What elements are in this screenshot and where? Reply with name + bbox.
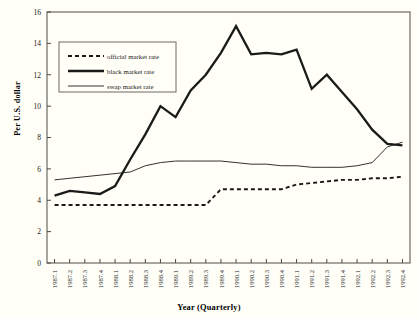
y-axis-title: Per U.S. dollar [13,64,22,154]
x-tick-label: 1992.2 [369,270,376,288]
x-tick-label: 1989.2 [187,270,194,288]
x-tick-label: 1987.4 [97,269,104,288]
x-tick-label: 1989.1 [172,270,179,288]
legend-label: black market rate [107,68,154,75]
x-axis-title: Year (Quarterly) [0,303,418,312]
y-tick-label: 2 [37,227,41,236]
x-tick-label: 1991.4 [339,269,346,288]
y-tick-label: 0 [37,259,41,268]
x-tick-label: 1988.3 [142,269,149,288]
x-tick-label: 1991.3 [323,269,330,288]
y-tick-label: 16 [33,8,41,17]
x-tick-label: 1989.3 [202,269,209,288]
y-tick-label: 4 [37,196,41,205]
x-tick-label: 1992.3 [384,269,391,288]
y-tick-label: 12 [33,71,41,80]
x-tick-label: 1990.2 [248,270,255,288]
line-chart-canvas: 0246810121416 1987.11987.21987.31987.419… [0,0,418,318]
x-tick-label: 1992.1 [354,270,361,288]
x-tick-label: 1990.3 [263,269,270,288]
x-tick-label: 1991.1 [293,270,300,288]
chart-figure: 0246810121416 1987.11987.21987.31987.419… [0,0,418,318]
y-tick-label: 10 [33,102,41,111]
x-tick-label: 1988.4 [157,269,164,288]
x-tick-label: 1990.1 [233,270,240,288]
y-tick-label: 8 [37,133,41,142]
x-tick-label: 1990.4 [278,269,285,288]
legend-label: swap market rate [107,83,153,90]
x-tick-label: 1987.1 [51,270,58,288]
x-tick-label: 1987.2 [66,270,73,288]
x-tick-label: 1988.1 [112,270,119,288]
legend-label: official market rate [107,53,159,60]
x-tick-label: 1991.2 [308,270,315,288]
chart-legend: official market rateblack market rateswa… [59,42,176,92]
y-tick-label: 6 [37,165,41,174]
y-tick-label: 14 [33,39,41,48]
x-tick-label: 1988.2 [127,270,134,288]
x-tick-label: 1992.4 [399,269,406,288]
x-tick-label: 1987.3 [81,269,88,288]
x-tick-label: 1989.4 [218,269,225,288]
